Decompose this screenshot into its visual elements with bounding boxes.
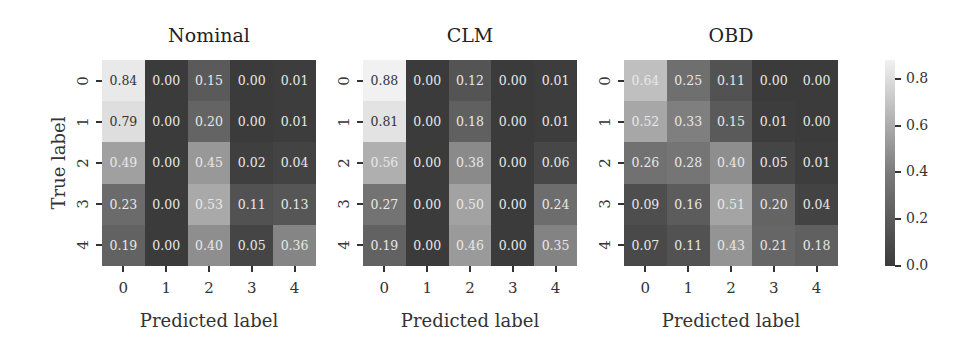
x-tick-mark — [208, 266, 210, 272]
heatmap-cell: 0.00 — [406, 225, 449, 266]
heatmap-cell: 0.00 — [145, 225, 188, 266]
heatmap-cell: 0.81 — [363, 101, 406, 142]
heatmap-cell: 0.84 — [102, 60, 145, 101]
heatmap-cell: 0.49 — [102, 142, 145, 183]
heatmap-cell: 0.27 — [363, 184, 406, 225]
y-tick-label: 1 — [74, 115, 92, 129]
heatmap-cell: 0.50 — [449, 184, 492, 225]
heatmap-cell: 0.20 — [752, 184, 795, 225]
heatmap-cell: 0.04 — [273, 142, 316, 183]
heatmap-cell: 0.00 — [752, 60, 795, 101]
heatmap-cell: 0.36 — [273, 225, 316, 266]
heatmap-cell: 0.00 — [406, 60, 449, 101]
heatmap-cell: 0.00 — [491, 60, 534, 101]
heatmap-cell: 0.07 — [624, 225, 667, 266]
heatmap-cell: 0.00 — [145, 184, 188, 225]
heatmap-cell: 0.02 — [230, 142, 273, 183]
heatmap-grid: 0.880.000.120.000.010.810.000.180.000.01… — [363, 60, 577, 266]
x-tick-mark — [294, 266, 296, 272]
y-tick-label: 0 — [335, 74, 353, 88]
colorbar-tick-label: 0.6 — [906, 117, 928, 133]
x-tick-mark — [512, 266, 514, 272]
heatmap-cell: 0.52 — [624, 101, 667, 142]
heatmap-cell: 0.33 — [667, 101, 710, 142]
heatmap-cell: 0.00 — [145, 101, 188, 142]
heatmap-cell: 0.24 — [534, 184, 577, 225]
colorbar-tick-mark — [895, 218, 901, 220]
heatmap-cell: 0.05 — [752, 142, 795, 183]
heatmap-cell: 0.01 — [534, 101, 577, 142]
heatmap-cell: 0.88 — [363, 60, 406, 101]
heatmap-cell: 0.40 — [188, 225, 231, 266]
heatmap-cell: 0.05 — [230, 225, 273, 266]
x-axis-label: Predicted label — [102, 310, 316, 331]
heatmap-cell: 0.00 — [145, 142, 188, 183]
x-tick-label: 2 — [199, 279, 219, 297]
y-tick-label: 1 — [335, 115, 353, 129]
panel-title: OBD — [624, 24, 838, 46]
y-tick-mark — [357, 203, 363, 205]
heatmap-cell: 0.13 — [273, 184, 316, 225]
heatmap-cell: 0.00 — [491, 101, 534, 142]
heatmap-cell: 0.00 — [491, 142, 534, 183]
heatmap-cell: 0.00 — [491, 225, 534, 266]
heatmap-cell: 0.23 — [102, 184, 145, 225]
heatmap-cell: 0.18 — [449, 101, 492, 142]
x-tick-label: 1 — [678, 279, 698, 297]
heatmap-cell: 0.00 — [795, 60, 838, 101]
heatmap-cell: 0.79 — [102, 101, 145, 142]
y-tick-mark — [618, 244, 624, 246]
colorbar-tick-label: 0.2 — [906, 210, 928, 226]
panel-title: Nominal — [102, 24, 316, 46]
colorbar-tick-mark — [895, 265, 901, 267]
y-tick-label: 3 — [596, 197, 614, 211]
x-tick-label: 0 — [113, 279, 133, 297]
heatmap-cell: 0.56 — [363, 142, 406, 183]
y-tick-label: 0 — [596, 74, 614, 88]
colorbar-tick-label: 0.0 — [906, 257, 928, 273]
heatmap-cell: 0.00 — [406, 184, 449, 225]
x-tick-mark — [816, 266, 818, 272]
y-tick-mark — [357, 244, 363, 246]
heatmap-cell: 0.28 — [667, 142, 710, 183]
y-axis-label: True label — [48, 117, 69, 210]
heatmap-cell: 0.16 — [667, 184, 710, 225]
heatmap-cell: 0.09 — [624, 184, 667, 225]
x-tick-mark — [555, 266, 557, 272]
heatmap-cell: 0.19 — [363, 225, 406, 266]
x-axis-label: Predicted label — [624, 310, 838, 331]
y-tick-label: 2 — [74, 156, 92, 170]
y-tick-label: 3 — [74, 197, 92, 211]
x-tick-label: 2 — [460, 279, 480, 297]
x-tick-mark — [687, 266, 689, 272]
heatmap-cell: 0.40 — [710, 142, 753, 183]
colorbar — [885, 60, 895, 266]
heatmap-cell: 0.43 — [710, 225, 753, 266]
heatmap-cell: 0.15 — [188, 60, 231, 101]
y-tick-mark — [96, 80, 102, 82]
heatmap-cell: 0.11 — [710, 60, 753, 101]
heatmap-cell: 0.46 — [449, 225, 492, 266]
y-tick-label: 4 — [74, 238, 92, 252]
y-tick-mark — [618, 121, 624, 123]
y-tick-mark — [96, 121, 102, 123]
heatmap-cell: 0.01 — [534, 60, 577, 101]
heatmap-cell: 0.20 — [188, 101, 231, 142]
heatmap-cell: 0.04 — [795, 184, 838, 225]
heatmap-cell: 0.19 — [102, 225, 145, 266]
y-tick-mark — [357, 121, 363, 123]
heatmap-cell: 0.18 — [795, 225, 838, 266]
x-tick-mark — [730, 266, 732, 272]
x-tick-label: 4 — [807, 279, 827, 297]
x-tick-label: 0 — [635, 279, 655, 297]
x-tick-label: 4 — [285, 279, 305, 297]
colorbar-tick-mark — [895, 125, 901, 127]
heatmap-grid: 0.840.000.150.000.010.790.000.200.000.01… — [102, 60, 316, 266]
x-tick-mark — [426, 266, 428, 272]
y-tick-label: 2 — [335, 156, 353, 170]
x-axis-label: Predicted label — [363, 310, 577, 331]
y-tick-mark — [618, 203, 624, 205]
y-tick-mark — [96, 244, 102, 246]
heatmap-cell: 0.11 — [230, 184, 273, 225]
heatmap-cell: 0.01 — [273, 101, 316, 142]
